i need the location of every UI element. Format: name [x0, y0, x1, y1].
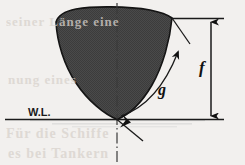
tangent-construction-line	[172, 18, 190, 44]
freeboard-label: f	[199, 58, 207, 77]
flare-angle-label: g	[157, 81, 166, 99]
hull-section	[56, 7, 172, 120]
diagram-canvas: W.L. g f	[0, 0, 245, 165]
hull-section-figure: seiner Länge eine nung eines Für die Sch…	[0, 0, 245, 165]
waterline-label: W.L.	[28, 106, 51, 118]
